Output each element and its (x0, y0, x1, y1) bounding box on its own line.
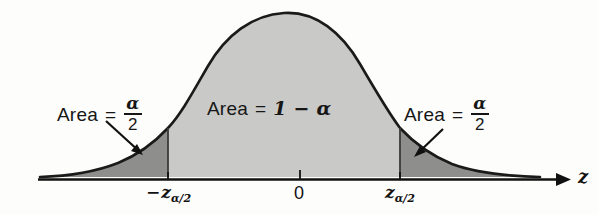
tick-label-right-critical: zα/2 (385, 184, 415, 201)
z-axis-label: z (578, 168, 588, 186)
right-critical-subscript: α/2 (395, 192, 415, 205)
left-tail-equals-sign: = (105, 105, 116, 124)
left-critical-minus-sign: − (146, 182, 160, 202)
left-tail-region (40, 128, 168, 177)
right-tail-area-label: Area = α 2 (404, 95, 489, 133)
normal-distribution-figure: Area = α 2 Area = 1 − α Area = α 2 −zα/2… (0, 0, 598, 215)
right-tail-equals-sign: = (452, 105, 463, 124)
left-tail-fraction-numerator: α (124, 95, 141, 113)
central-area-expression: 1 − α (273, 99, 331, 118)
right-tail-area-word: Area (404, 105, 445, 124)
left-tail-alpha-over-two: α 2 (124, 95, 141, 133)
left-tail-fraction-denominator: 2 (126, 115, 140, 133)
central-equals-sign: = (255, 99, 266, 118)
tick-label-left-critical: −zα/2 (146, 184, 191, 201)
left-tail-area-label: Area = α 2 (57, 95, 142, 133)
z-axis-arrowhead (556, 173, 571, 186)
right-tail-alpha-over-two: α 2 (471, 95, 488, 133)
tick-label-center: 0 (294, 184, 304, 202)
left-tail-area-word: Area (57, 105, 98, 124)
central-region (168, 13, 400, 177)
z-axis-name: z (578, 166, 588, 187)
right-critical-symbol: z (385, 182, 395, 202)
central-area-word: Area (207, 99, 248, 118)
left-critical-subscript: α/2 (171, 192, 191, 205)
right-tail-fraction-numerator: α (471, 95, 488, 113)
right-tail-fraction-denominator: 2 (473, 115, 487, 133)
central-area-label: Area = 1 − α (207, 99, 331, 118)
center-tick-value: 0 (294, 183, 304, 203)
left-critical-symbol: z (161, 182, 171, 202)
